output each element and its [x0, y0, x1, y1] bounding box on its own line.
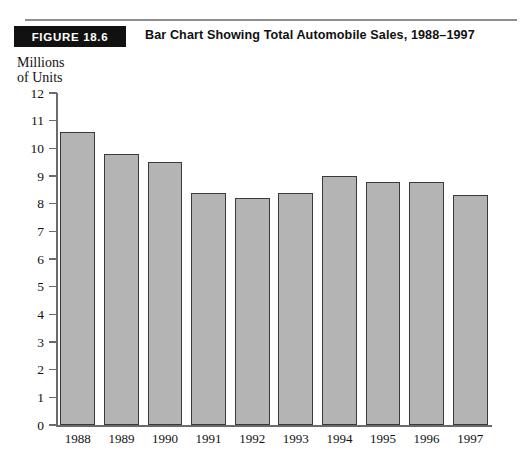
- y-axis-tick: [49, 258, 57, 259]
- x-axis-tick-label: 1996: [405, 432, 449, 445]
- y-axis-tick-label: 4: [14, 308, 44, 322]
- y-axis-tick-label: 12: [14, 87, 44, 101]
- y-axis-tick: [49, 314, 57, 315]
- bar: [235, 198, 270, 425]
- y-axis-tick: [49, 92, 57, 93]
- y-axis-tick-label: 3: [14, 336, 44, 350]
- bar: [322, 176, 357, 425]
- y-axis-tick-label: 10: [14, 142, 44, 156]
- x-axis-tick-label: 1989: [100, 432, 144, 445]
- bar: [148, 162, 183, 425]
- y-axis-tick: [49, 231, 57, 232]
- x-axis-tick-label: 1995: [361, 432, 405, 445]
- y-axis-tick: [49, 397, 57, 398]
- y-axis-tick-label: 5: [14, 280, 44, 294]
- bar-chart: 0123456789101112 19881989199019911992199…: [0, 0, 524, 467]
- y-axis-tick: [49, 286, 57, 287]
- x-axis-tick-label: 1991: [187, 432, 231, 445]
- y-axis-tick-label: 1: [14, 391, 44, 405]
- y-axis-tick: [49, 369, 57, 370]
- bar: [278, 193, 313, 425]
- y-axis-tick: [49, 341, 57, 342]
- x-axis-tick-label: 1988: [56, 432, 100, 445]
- y-axis-tick: [49, 175, 57, 176]
- x-axis-tick-label: 1993: [274, 432, 318, 445]
- y-axis-tick-label: 8: [14, 197, 44, 211]
- x-axis-tick-label: 1990: [143, 432, 187, 445]
- y-axis-tick: [49, 148, 57, 149]
- bar: [409, 182, 444, 425]
- x-axis-line: [56, 425, 492, 427]
- bar: [104, 154, 139, 425]
- x-axis-tick-label: 1994: [318, 432, 362, 445]
- y-axis-tick: [49, 120, 57, 121]
- y-axis-tick-label: 9: [14, 170, 44, 184]
- bar: [453, 195, 488, 425]
- y-axis-tick-label: 2: [14, 363, 44, 377]
- x-axis-tick-label: 1992: [230, 432, 274, 445]
- y-axis-tick: [49, 424, 57, 425]
- y-axis-tick-label: 11: [14, 114, 44, 128]
- bar: [60, 132, 95, 425]
- y-axis-tick-label: 7: [14, 225, 44, 239]
- bar: [191, 193, 226, 425]
- y-axis-tick-label: 0: [14, 419, 44, 433]
- bar: [366, 182, 401, 425]
- y-axis-tick-label: 6: [14, 253, 44, 267]
- y-axis-tick: [49, 203, 57, 204]
- x-axis-tick-label: 1997: [448, 432, 492, 445]
